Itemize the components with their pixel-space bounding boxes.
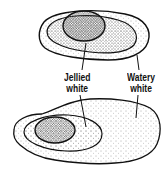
- fresh-egg: [39, 11, 149, 70]
- older-egg: [14, 95, 160, 164]
- watery-white-label-line2: white: [127, 83, 155, 94]
- watery-white-label-line1: Watery: [127, 72, 155, 83]
- jellied-white-label: Jellied white: [64, 72, 90, 94]
- fresh-egg-yolk: [63, 11, 105, 41]
- jellied-white-label-line1: Jellied: [64, 72, 90, 83]
- watery-leader-line-top: [137, 55, 139, 70]
- older-egg-yolk: [35, 117, 75, 143]
- watery-white-label: Watery white: [127, 72, 155, 94]
- jellied-white-label-line2: white: [64, 83, 90, 94]
